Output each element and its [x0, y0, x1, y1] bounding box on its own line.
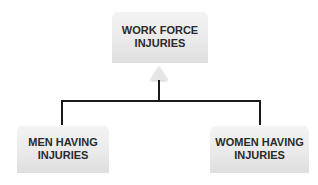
- connector-right-drop: [259, 100, 261, 126]
- connector-horizontal: [61, 100, 261, 102]
- node-label-line2: INJURIES: [215, 149, 303, 162]
- node-work-force-injuries: WORK FORCE INJURIES: [112, 11, 208, 63]
- connector-stem: [158, 80, 160, 102]
- node-men-having-injuries: MEN HAVING INJURIES: [17, 125, 109, 173]
- node-label-line1: WOMEN HAVING: [215, 136, 303, 149]
- node-label-line2: INJURIES: [28, 149, 97, 162]
- node-label-line1: MEN HAVING: [28, 136, 97, 149]
- node-women-having-injuries: WOMEN HAVING INJURIES: [210, 125, 309, 173]
- node-label-line1: WORK FORCE: [122, 24, 198, 37]
- connector-left-drop: [61, 100, 63, 126]
- arrow-up-icon: [150, 66, 168, 80]
- node-label-line2: INJURIES: [122, 37, 198, 50]
